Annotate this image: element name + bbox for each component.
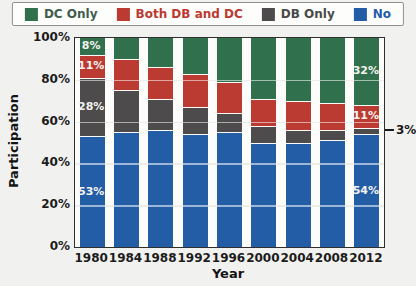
x-axis-title: Year bbox=[212, 266, 244, 281]
legend-swatch-db-only bbox=[262, 8, 275, 21]
y-tick-20: 20% bbox=[10, 197, 70, 211]
legend-label: DC Only bbox=[44, 7, 98, 21]
legend-label: Both DB and DC bbox=[136, 7, 243, 21]
y-axis-title: Participation bbox=[6, 94, 21, 188]
annotation-text: 3% bbox=[396, 123, 416, 137]
y-tick-0: 0% bbox=[10, 239, 70, 253]
gridline-overlay-60 bbox=[75, 122, 384, 124]
x-tick-1992: 1992 bbox=[177, 251, 210, 265]
legend-swatch-no bbox=[354, 8, 367, 21]
gridline-overlay-20 bbox=[75, 205, 384, 207]
y-tick-60: 60% bbox=[10, 114, 70, 128]
legend-item-both-db-and-dc: Both DB and DC bbox=[117, 7, 243, 21]
legend-label: No bbox=[373, 7, 391, 21]
x-tick-1988: 1988 bbox=[143, 251, 176, 265]
legend-swatch-dc-only bbox=[25, 8, 38, 21]
y-tick-100: 100% bbox=[10, 30, 70, 44]
gridline-overlay-40 bbox=[75, 163, 384, 165]
y-tick-80: 80% bbox=[10, 72, 70, 86]
x-tick-2012: 2012 bbox=[349, 251, 382, 265]
x-tick-1980: 1980 bbox=[74, 251, 107, 265]
legend-item-no: No bbox=[354, 7, 391, 21]
gridlines-overlay bbox=[75, 38, 384, 247]
x-tick-2000: 2000 bbox=[246, 251, 279, 265]
plot-area bbox=[74, 37, 385, 248]
x-tick-1996: 1996 bbox=[212, 251, 245, 265]
stacked-bar-chart: DC OnlyBoth DB and DCDB OnlyNo Participa… bbox=[0, 0, 416, 286]
x-tick-1984: 1984 bbox=[109, 251, 142, 265]
legend-label: DB Only bbox=[281, 7, 335, 21]
legend-swatch-both-db-and-dc bbox=[117, 8, 130, 21]
gridline-overlay-80 bbox=[75, 80, 384, 82]
legend: DC OnlyBoth DB and DCDB OnlyNo bbox=[12, 2, 404, 26]
legend-item-db-only: DB Only bbox=[262, 7, 335, 21]
y-tick-40: 40% bbox=[10, 155, 70, 169]
annotation-leader-line bbox=[385, 129, 394, 131]
legend-item-dc-only: DC Only bbox=[25, 7, 98, 21]
x-tick-2008: 2008 bbox=[315, 251, 348, 265]
x-tick-2004: 2004 bbox=[280, 251, 313, 265]
